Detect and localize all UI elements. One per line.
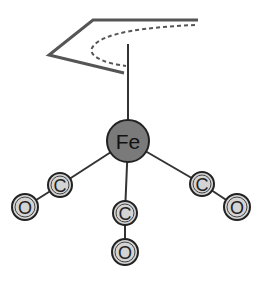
fe-label: Fe — [116, 130, 141, 153]
c-label: C — [196, 175, 209, 195]
o-label: O — [18, 198, 32, 218]
o-label: O — [230, 198, 244, 218]
ligand-delocalized-bond — [92, 25, 195, 66]
oxygen-atom-left: O — [12, 194, 38, 220]
o-label: O — [118, 243, 132, 263]
oxygen-atom-middle: O — [112, 239, 138, 265]
c-label: C — [54, 176, 67, 196]
carbon-atom-middle: C — [113, 201, 137, 225]
molecule-diagram: Fe C C C O O O — [0, 0, 264, 283]
oxygen-atom-right: O — [224, 194, 250, 220]
c-label: C — [119, 204, 132, 224]
carbon-atom-left: C — [48, 173, 72, 197]
fe-atom: Fe — [107, 120, 149, 162]
carbon-atom-right: C — [190, 172, 214, 196]
